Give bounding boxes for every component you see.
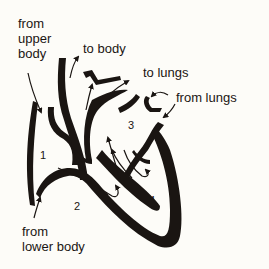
pulmonary-vein-wall	[144, 96, 162, 112]
septum-upper-wall	[84, 90, 128, 160]
label-to-lungs: to lungs	[143, 66, 189, 79]
label-from-upper-body-1: from	[18, 17, 44, 30]
label-from-upper-body-2: upper	[18, 32, 51, 45]
label-to-body: to body	[83, 42, 126, 55]
chamber-1-label: 1	[40, 150, 46, 161]
arrow-to-body	[70, 57, 78, 78]
chamber-2-label: 2	[74, 201, 80, 212]
right-atrium-wall	[27, 101, 38, 206]
ventricle-outer-wall	[36, 128, 182, 248]
arrow-from-lower-body	[34, 198, 40, 218]
pulmonary-artery-wall	[83, 70, 121, 85]
label-from-lower-body-2: lower body	[22, 240, 85, 253]
left-atrium-wall	[118, 94, 140, 113]
arrow-from-lungs-top	[152, 92, 168, 96]
chamber-4-label: 4	[149, 195, 155, 206]
chamber-3-label: 3	[128, 120, 134, 131]
arrow-chamber-2-curl	[58, 168, 118, 197]
label-from-upper-body-3: body	[18, 47, 46, 60]
label-from-lungs: from lungs	[176, 91, 237, 104]
arrow-from-lungs-bottom	[164, 104, 175, 117]
label-from-lower-body-1: from	[22, 225, 48, 238]
